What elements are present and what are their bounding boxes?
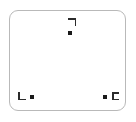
marker-canvas: [0, 0, 136, 122]
marker-dot: [103, 95, 107, 99]
top-right-corner-bracket-icon: [68, 18, 76, 26]
bottom-left-corner-bracket-icon: [18, 92, 26, 100]
marker-dot: [30, 95, 34, 99]
left-facing-c-bracket-icon: [112, 92, 120, 100]
marker-dot: [68, 31, 72, 35]
